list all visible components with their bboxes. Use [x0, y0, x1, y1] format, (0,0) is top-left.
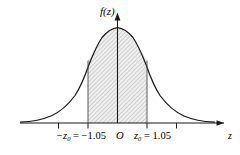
right-bound-value: = 1.05: [144, 130, 171, 141]
x-axis-ticks: [59, 123, 177, 129]
origin-label: O: [116, 131, 124, 142]
left-bound-label: −z0 = −1.05: [56, 131, 106, 142]
left-bound-value: = −1.05: [73, 130, 106, 141]
right-bound-subscript: 0: [138, 135, 141, 142]
y-axis-label: f(z): [100, 6, 115, 17]
right-bound-label: z0 = 1.05: [134, 131, 171, 142]
x-axis-arrowhead: [217, 120, 225, 125]
x-axis-label-text: z: [228, 130, 232, 141]
origin-label-text: O: [116, 130, 124, 141]
y-axis-arrowhead: [115, 13, 121, 21]
x-axis-label: z: [228, 131, 232, 141]
y-axis-label-text: f(z): [100, 5, 115, 17]
normal-distribution-figure: f(z) −z0 = −1.05 O z0 = 1.05 z: [0, 0, 240, 155]
left-bound-subscript: 0: [67, 135, 70, 142]
left-bound-symbol: −z: [56, 130, 67, 141]
